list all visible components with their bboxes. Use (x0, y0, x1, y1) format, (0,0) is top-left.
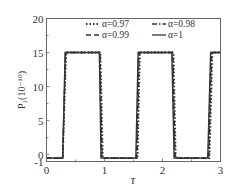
plot-frame (47, 19, 221, 162)
series-line-0 (47, 53, 221, 159)
series-line-3 (47, 53, 221, 159)
legend-label: α=0.98 (168, 19, 195, 29)
series-layer (47, 53, 221, 159)
y-tick-label: 0 (38, 149, 44, 161)
legend-label: α=0.99 (102, 30, 129, 40)
x-axis-label: τ (131, 173, 136, 187)
y-axis-label: P₁(10⁻¹⁰) (16, 71, 28, 109)
x-tick-label: 1 (102, 164, 108, 176)
x-tick-label: 3 (218, 164, 224, 176)
legend-label: α=0.97 (102, 19, 129, 29)
y-tick-label: 10 (33, 81, 45, 93)
series-line-2 (47, 53, 221, 159)
y-tick-label: 5 (38, 115, 44, 127)
series-line-1 (47, 53, 221, 159)
y-tick-label: 15 (33, 47, 45, 59)
x-tick-label: 2 (160, 164, 166, 176)
y-tick-label: 20 (33, 13, 45, 25)
chart: 0123-105101520 α=0.97α=0.98α=0.99α=1 τ P… (0, 0, 239, 193)
legend: α=0.97α=0.98α=0.99α=1 (86, 19, 195, 40)
x-tick-label: 0 (44, 164, 50, 176)
legend-label: α=1 (168, 30, 183, 40)
